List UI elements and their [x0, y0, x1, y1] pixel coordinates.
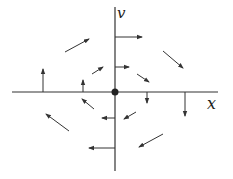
x-axis-label: x — [207, 94, 216, 113]
vector-arrow — [124, 112, 136, 119]
vector-arrow — [46, 114, 69, 131]
phase-plane-diagram — [0, 0, 233, 179]
vector-arrow — [137, 74, 149, 82]
vector-arrow — [65, 39, 89, 52]
vector-arrow — [82, 99, 94, 109]
v-axis-label: v — [117, 4, 125, 22]
vector-arrow — [139, 134, 163, 147]
vector-arrow — [163, 51, 183, 68]
origin-equilibrium-point — [112, 89, 119, 96]
vector-arrow — [92, 67, 103, 74]
